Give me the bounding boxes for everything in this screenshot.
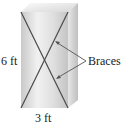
braces-callout-label: Braces	[88, 55, 121, 67]
height-label: 6 ft	[1, 55, 17, 67]
width-label: 3 ft	[35, 112, 51, 124]
box-top-face	[21, 3, 78, 12]
